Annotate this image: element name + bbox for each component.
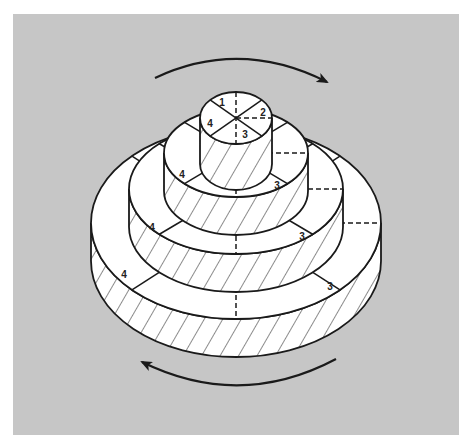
- segment-label-3: 3: [327, 281, 333, 292]
- segment-label-4: 4: [207, 118, 213, 129]
- segment-label-4: 4: [121, 269, 127, 280]
- segment-label-3: 3: [299, 231, 305, 242]
- segment-label-3: 3: [274, 180, 280, 191]
- segment-label-4: 4: [179, 169, 185, 180]
- segment-label-4: 4: [149, 222, 155, 233]
- segment-label-3: 3: [242, 129, 248, 140]
- tiered-cylinder-diagram: 1243434343: [0, 0, 473, 446]
- segment-label-1: 1: [219, 97, 225, 108]
- segment-label-2: 2: [260, 107, 266, 118]
